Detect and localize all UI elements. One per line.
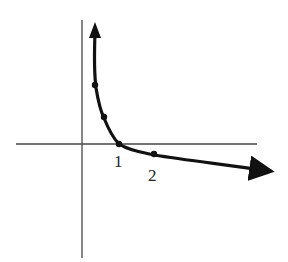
log-graph: 1 2: [0, 0, 288, 262]
x-tick-label-1: 1: [114, 152, 123, 171]
data-point: [116, 141, 122, 147]
data-point: [151, 151, 157, 157]
curve: [95, 33, 262, 170]
right-arrow-icon: [256, 163, 272, 176]
x-tick-label-2: 2: [148, 166, 157, 185]
up-arrow-icon: [89, 22, 101, 38]
data-point: [101, 114, 107, 120]
data-point: [92, 82, 98, 88]
